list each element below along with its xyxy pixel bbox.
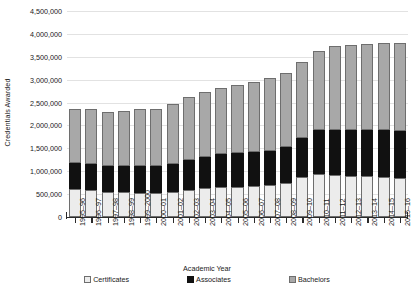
x-tick-label: 2005–06 [241,198,250,226]
x-tick-label: 2003–04 [208,198,217,226]
bar-segment-associates[interactable] [102,166,114,193]
x-tick [189,218,190,223]
legend-entry[interactable]: Certificates [84,275,129,284]
bar-segment-associates[interactable] [134,166,146,192]
bar-segment-bachelors[interactable] [394,43,406,131]
bar-group[interactable] [199,10,211,217]
bar-group[interactable] [345,10,357,217]
bar-group[interactable] [215,10,227,217]
bar-group[interactable] [134,10,146,217]
x-tick-label: 1996–97 [94,198,103,226]
bar-segment-bachelors[interactable] [378,43,390,130]
x-tick [221,218,222,223]
bar-segment-associates[interactable] [248,152,260,186]
y-tick-label: 2,500,000 [30,98,62,107]
bar-group[interactable] [296,10,308,217]
bar-segment-bachelors[interactable] [361,44,373,130]
bar-segment-bachelors[interactable] [199,92,211,157]
x-tick-label: 2012–13 [354,198,363,226]
x-tick-label: 2002–03 [192,198,201,226]
x-tick [173,218,174,223]
bar-segment-associates[interactable] [329,130,341,176]
x-tick [124,218,125,223]
legend-swatch-icon [84,276,91,283]
bar-group[interactable] [264,10,276,217]
bar-group[interactable] [280,10,292,217]
bar-group[interactable] [378,10,390,217]
x-tick-label: 2011–12 [338,199,347,226]
bar-group[interactable] [102,10,114,217]
bar-segment-bachelors[interactable] [167,104,179,164]
bar-segment-associates[interactable] [150,166,162,193]
bar-segment-bachelors[interactable] [231,85,243,153]
bar-group[interactable] [361,10,373,217]
bar-group[interactable] [69,10,81,217]
bar-segment-bachelors[interactable] [264,78,276,150]
bar-segment-associates[interactable] [361,130,373,176]
y-tick-label: 2,000,000 [30,121,62,130]
bar-segment-bachelors[interactable] [313,51,325,130]
bar-segment-bachelors[interactable] [69,109,81,162]
bar-segment-bachelors[interactable] [118,111,130,166]
bar-segment-associates[interactable] [378,130,390,177]
y-tick-label: 1,500,000 [30,144,62,153]
x-tick-label: 2007–08 [273,198,282,226]
x-tick [270,218,271,223]
x-tick-label: 2015–16 [403,198,412,226]
y-tick-label: 3,000,000 [30,75,62,84]
x-tick [156,218,157,223]
bar-segment-associates[interactable] [313,130,325,173]
x-tick [335,218,336,223]
bar-segment-associates[interactable] [345,130,357,176]
bar-segment-bachelors[interactable] [215,88,227,154]
bar-segment-associates[interactable] [215,154,227,187]
bar-segment-associates[interactable] [280,147,292,183]
bar-group[interactable] [248,10,260,217]
x-tick [319,218,320,223]
x-axis-title: Academic Year [0,264,414,273]
bar-segment-associates[interactable] [183,160,195,190]
bar-group[interactable] [394,10,406,217]
chart-legend: CertificatesAssociatesBachelors [0,275,414,284]
bar-segment-associates[interactable] [85,164,97,191]
bar-segment-associates[interactable] [118,166,130,192]
bar-segment-bachelors[interactable] [150,109,162,166]
bar-segment-associates[interactable] [69,163,81,190]
bar-group[interactable] [183,10,195,217]
bar-segment-associates[interactable] [199,157,211,188]
bar-segment-bachelors[interactable] [280,73,292,147]
legend-entry[interactable]: Bachelors [289,275,330,284]
bar-segment-bachelors[interactable] [345,45,357,130]
y-tick-label: 0 [58,213,62,222]
x-tick-label: 1995–96 [78,198,87,226]
bar-segment-bachelors[interactable] [85,109,97,163]
bar-group[interactable] [167,10,179,217]
bar-segment-bachelors[interactable] [102,112,114,166]
bar-segment-associates[interactable] [394,131,406,178]
bar-segment-associates[interactable] [167,164,179,191]
bar-group[interactable] [118,10,130,217]
bar-group[interactable] [329,10,341,217]
bar-group[interactable] [85,10,97,217]
bar-segment-associates[interactable] [296,138,308,177]
bar-segment-associates[interactable] [231,153,243,187]
legend-swatch-icon [187,276,194,283]
x-tick-label: 1999–2000 [143,190,152,226]
x-tick [367,218,368,223]
x-tick-label: 1997–98 [111,198,120,226]
bar-group[interactable] [150,10,162,217]
bar-segment-bachelors[interactable] [329,46,341,130]
bar-segment-associates[interactable] [264,151,276,186]
bar-segment-bachelors[interactable] [183,97,195,160]
bar-segment-bachelors[interactable] [248,82,260,152]
x-tick [91,218,92,223]
plot-area [67,10,408,218]
bar-group[interactable] [231,10,243,217]
bar-segment-bachelors[interactable] [134,109,146,166]
bar-segment-bachelors[interactable] [296,62,308,138]
x-tick [286,218,287,223]
y-tick-label: 4,500,000 [30,7,62,16]
x-tick [400,218,401,223]
bar-group[interactable] [313,10,325,217]
legend-entry[interactable]: Associates [187,275,231,284]
